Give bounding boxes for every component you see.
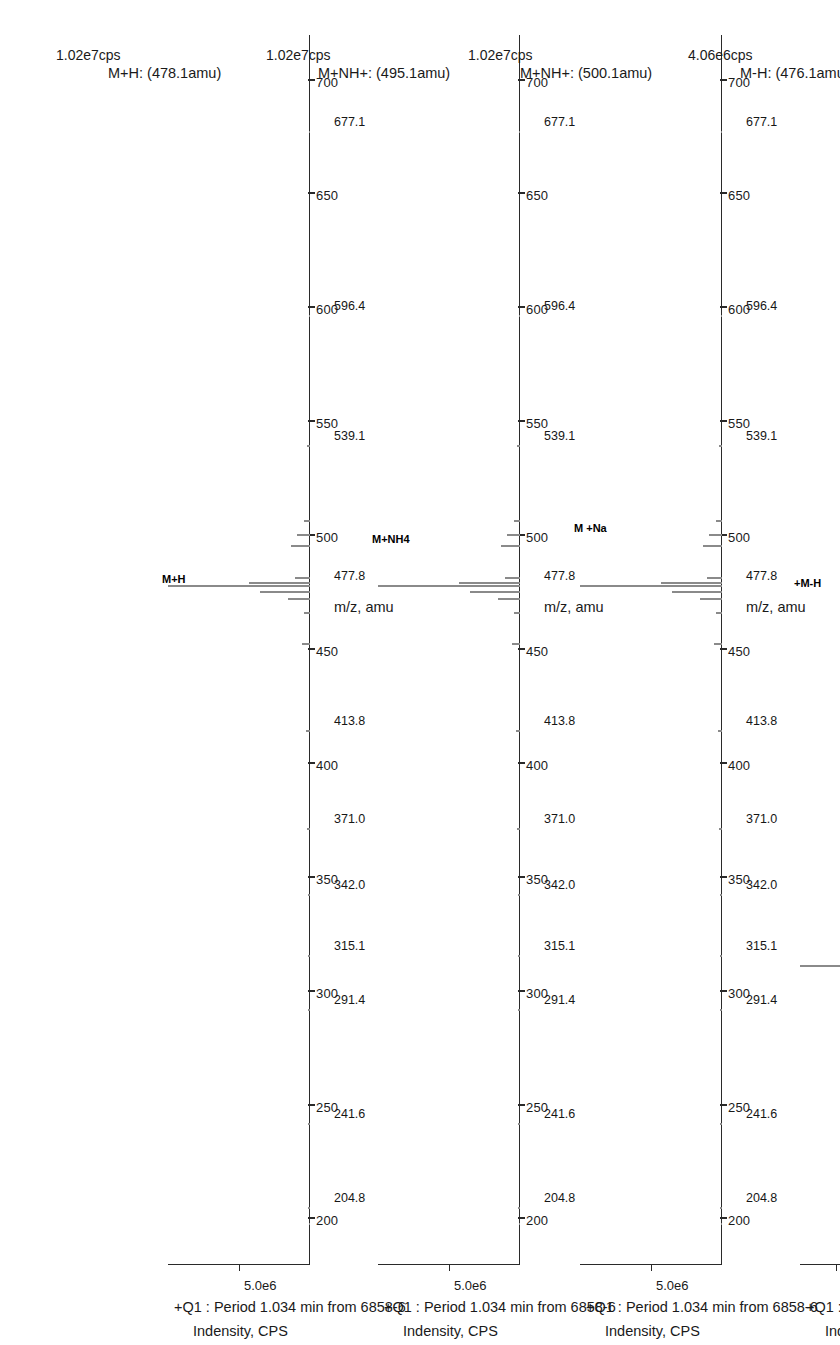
panel-2-peak-label: 315.1 xyxy=(544,939,575,953)
panel-3-intensity-tick-label: 5.0e6 xyxy=(656,1278,689,1293)
panel-2-peak xyxy=(517,445,520,447)
panel-4-intensity-axis-line xyxy=(800,1264,840,1265)
panel-3-peak-label: 539.1 xyxy=(746,429,777,443)
panel-3-peak-label: 241.6 xyxy=(746,1107,777,1121)
panel-3-peak-label: 477.8 xyxy=(746,569,777,583)
panel-2-mz-tick xyxy=(518,876,525,878)
panel-3-mz-tick xyxy=(720,79,727,81)
panel-2-mz-tick xyxy=(518,192,525,194)
panel-1-peak xyxy=(304,612,310,614)
panel-3-peak xyxy=(707,577,722,579)
panel-2-peak xyxy=(519,131,520,133)
panel-2-cps-label: 1.02e7cps xyxy=(266,47,331,63)
panel-1-peak xyxy=(307,445,310,447)
panel-4-cps-label: 4.06e6cps xyxy=(688,47,753,63)
panel-1-mz-tick xyxy=(308,762,315,764)
panel-1-peak-label: 371.0 xyxy=(334,812,365,826)
panel-3-mz-tick-label: 200 xyxy=(728,1213,750,1228)
panel-3-peak xyxy=(720,1009,722,1011)
panel-1-mz-tick xyxy=(308,306,315,308)
panel-3-peak xyxy=(709,534,722,536)
panel-2-mz-tick xyxy=(518,990,525,992)
panel-3-peak xyxy=(720,1123,722,1125)
panel-3-mz-tick xyxy=(720,192,727,194)
panel-1-peak xyxy=(308,1123,310,1125)
panel-4-plot-area: 2002503003504004505005506006507001e62e63… xyxy=(800,35,840,1265)
panel-2-mz-tick xyxy=(518,1217,525,1219)
panel-1-ion-annotation: M+H xyxy=(162,573,186,585)
panel-2-peak-label: 477.8 xyxy=(544,569,575,583)
panel-3-peak xyxy=(703,545,722,547)
panel-4-peak xyxy=(800,965,840,967)
panel-2-intensity-tick xyxy=(449,1264,450,1271)
panel-2-intensity-axis-title: Indensity, CPS xyxy=(403,1323,498,1339)
panel-2-peak-label: 413.8 xyxy=(544,714,575,728)
panel-2-mz-tick-label: 650 xyxy=(526,188,548,203)
panel-1-mz-tick xyxy=(308,648,315,650)
panel-1-intensity-tick-label: 5.0e6 xyxy=(244,1278,277,1293)
panel-1-mz-tick xyxy=(308,990,315,992)
panel-1-peak-label: 204.8 xyxy=(334,1191,365,1205)
panel-1-peak xyxy=(295,577,310,579)
panel-3-mz-axis-line xyxy=(721,35,722,1265)
panel-2-mz-tick-label: 450 xyxy=(526,644,548,659)
panel-3-mz-tick xyxy=(720,420,727,422)
panel-1-peak xyxy=(260,591,310,593)
panel-1-intensity-tick xyxy=(239,1264,240,1271)
panel-2-peak xyxy=(505,577,520,579)
panel-1-peak xyxy=(309,315,310,317)
panel-2-intensity-tick-label: 5.0e6 xyxy=(454,1278,487,1293)
panel-1-peak-label: 539.1 xyxy=(334,429,365,443)
panel-3-peak xyxy=(716,612,722,614)
panel-2-peak-label: 539.1 xyxy=(544,429,575,443)
panel-3-ion-annotation: M +Na xyxy=(574,522,607,534)
panel-3-mz-tick xyxy=(720,876,727,878)
panel-3-peak xyxy=(720,894,722,896)
panel-1-peak xyxy=(308,894,310,896)
panel-2-period-label: +Q1 : Period 1.034 min from 6858-6 xyxy=(384,1299,616,1315)
panel-2-peak xyxy=(516,730,520,732)
panel-3-peak xyxy=(721,315,722,317)
panel-2: 2002503003504004505005506006507005.0e620… xyxy=(378,35,520,1265)
panel-2-peak xyxy=(514,612,520,614)
panel-1-mz-tick xyxy=(308,1217,315,1219)
panel-1-mz-tick xyxy=(308,1104,315,1106)
panel-1-peak-label: 477.8 xyxy=(334,569,365,583)
panel-2-peak-label: 677.1 xyxy=(544,115,575,129)
panel-2-peak xyxy=(459,582,520,584)
panel-1-mz-axis-line xyxy=(309,35,310,1265)
panel-2-peak xyxy=(518,1009,520,1011)
panel-3-peak-label: 342.0 xyxy=(746,878,777,892)
panel-1-peak-label: 241.6 xyxy=(334,1107,365,1121)
panel-3-mz-tick-label: 650 xyxy=(728,188,750,203)
panel-1-peak-label: 342.0 xyxy=(334,878,365,892)
panel-3-peak-label: 413.8 xyxy=(746,714,777,728)
panel-3-peak xyxy=(720,955,722,957)
panel-2-peak xyxy=(519,315,520,317)
panel-1-peak xyxy=(297,534,310,536)
panel-3-peak xyxy=(580,585,722,587)
panel-2-peak xyxy=(519,1223,520,1225)
panel-2-mz-tick-label: 200 xyxy=(526,1213,548,1228)
panel-1-peak-label: 291.4 xyxy=(334,993,365,1007)
panel-4-intensity-tick xyxy=(836,1264,837,1271)
panel-1-period-label: +Q1 : Period 1.034 min from 6858-6 xyxy=(174,1299,406,1315)
panel-1-peak xyxy=(309,1223,310,1225)
panel-1-peak xyxy=(291,545,310,547)
panel-1-mz-tick-label: 450 xyxy=(316,644,338,659)
panel-3-peak-label: 204.8 xyxy=(746,1191,777,1205)
panel-2-mz-tick xyxy=(518,762,525,764)
panel-3-peak xyxy=(721,131,722,133)
panel-3-mz-tick-label: 450 xyxy=(728,644,750,659)
panel-2-plot-area: 2002503003504004505005506006507005.0e620… xyxy=(378,35,520,1265)
panel-1-peak-label: 677.1 xyxy=(334,115,365,129)
panel-3-peak xyxy=(700,598,722,600)
panel-1-cps-label: 1.02e7cps xyxy=(56,47,121,63)
panel-2-ion-species-label: M+NH+: (495.1amu) xyxy=(318,65,450,81)
panel-2-peak-label: 291.4 xyxy=(544,993,575,1007)
panel-1-mz-tick-label: 200 xyxy=(316,1213,338,1228)
panel-2-mz-tick xyxy=(518,306,525,308)
panel-1-mz-tick-label: 400 xyxy=(316,758,338,773)
panel-2-peak xyxy=(518,894,520,896)
panel-3-mz-tick xyxy=(720,990,727,992)
